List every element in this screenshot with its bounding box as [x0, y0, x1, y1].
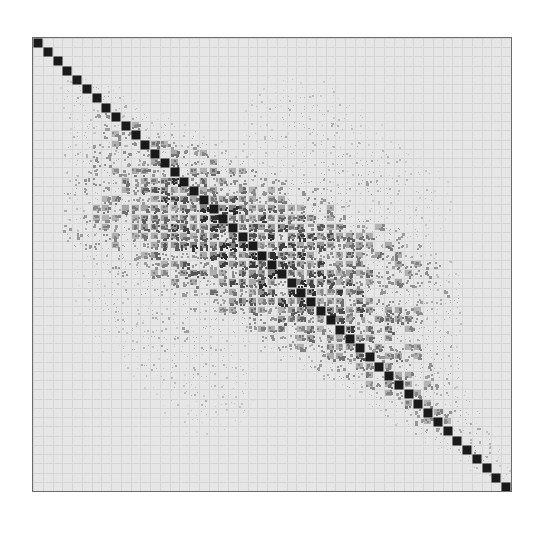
- matrix-heatmap-canvas: [33, 38, 511, 491]
- figure-container: [0, 0, 540, 536]
- matrix-plot-area: [32, 37, 512, 492]
